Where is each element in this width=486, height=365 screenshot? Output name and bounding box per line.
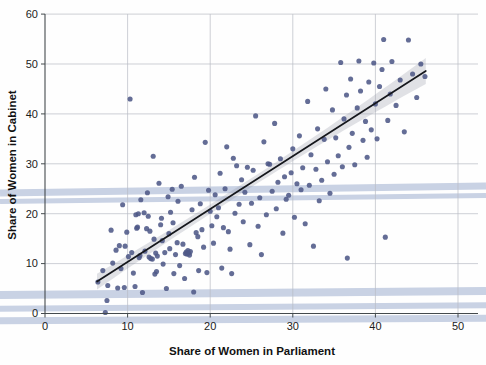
- data-point: [166, 194, 171, 199]
- data-point: [410, 71, 415, 76]
- data-point: [198, 201, 203, 206]
- data-point: [267, 162, 272, 167]
- data-point: [170, 220, 175, 225]
- data-point: [154, 269, 159, 274]
- data-point: [224, 144, 229, 149]
- data-point: [307, 183, 312, 188]
- data-point: [138, 197, 143, 202]
- data-point: [270, 189, 275, 194]
- data-point: [110, 261, 115, 266]
- data-point: [422, 74, 427, 79]
- data-point: [122, 285, 127, 290]
- x-tick-label: 0: [42, 320, 48, 332]
- data-point: [113, 248, 118, 253]
- data-point: [126, 254, 131, 259]
- data-point: [278, 156, 283, 161]
- data-point: [142, 210, 147, 215]
- data-point: [292, 215, 297, 220]
- data-point: [213, 192, 218, 197]
- data-point: [303, 221, 308, 226]
- data-point: [363, 119, 368, 124]
- data-point: [226, 229, 231, 234]
- data-point: [297, 133, 302, 138]
- data-point: [398, 77, 403, 82]
- data-point: [352, 162, 357, 167]
- data-point: [135, 225, 140, 230]
- data-point: [229, 271, 234, 276]
- data-point: [145, 190, 150, 195]
- data-point: [299, 187, 304, 192]
- data-point: [327, 191, 332, 196]
- data-point: [199, 227, 204, 232]
- data-point: [209, 223, 214, 228]
- data-point: [336, 153, 341, 158]
- data-point: [294, 181, 299, 186]
- data-point: [136, 211, 141, 216]
- data-point: [319, 178, 324, 183]
- data-point: [333, 135, 338, 140]
- data-point: [300, 165, 305, 170]
- data-point: [196, 268, 201, 273]
- data-point: [159, 216, 164, 221]
- data-point: [204, 270, 209, 275]
- data-point: [257, 195, 262, 200]
- data-point: [290, 146, 295, 151]
- data-point: [168, 210, 173, 215]
- data-point: [211, 241, 216, 246]
- data-point: [206, 188, 211, 193]
- data-point: [180, 242, 185, 247]
- data-point: [188, 249, 193, 254]
- data-point: [182, 276, 187, 281]
- data-point: [156, 181, 161, 186]
- data-point: [128, 96, 133, 101]
- data-point: [414, 95, 419, 100]
- data-point: [406, 38, 411, 43]
- data-point: [358, 88, 363, 93]
- data-point: [272, 121, 277, 126]
- data-point: [344, 92, 349, 97]
- data-point: [155, 254, 160, 259]
- x-tick-label: 20: [204, 320, 216, 332]
- data-point: [245, 165, 250, 170]
- x-tick-label: 40: [369, 320, 381, 332]
- data-point: [147, 229, 152, 234]
- y-tick-label: 20: [26, 208, 38, 220]
- data-point: [189, 207, 194, 212]
- data-point: [175, 199, 180, 204]
- y-tick-label: 10: [26, 257, 38, 269]
- data-point: [394, 103, 399, 108]
- data-point: [223, 186, 228, 191]
- data-point: [115, 286, 120, 291]
- data-point: [365, 155, 370, 160]
- data-point: [109, 228, 114, 233]
- data-point: [348, 76, 353, 81]
- data-point: [371, 60, 376, 65]
- data-point: [242, 190, 247, 195]
- data-point: [315, 126, 320, 131]
- data-point: [308, 152, 313, 157]
- data-point: [177, 263, 182, 268]
- data-point: [280, 231, 285, 236]
- data-point: [234, 163, 239, 168]
- data-point: [129, 250, 134, 255]
- data-point: [227, 247, 232, 252]
- data-point: [150, 257, 155, 262]
- data-point: [251, 168, 256, 173]
- data-point: [167, 246, 172, 251]
- y-tick-label: 40: [26, 108, 38, 120]
- y-tick-label: 0: [32, 307, 38, 319]
- data-point: [232, 211, 237, 216]
- data-point: [221, 225, 226, 230]
- data-point: [317, 198, 322, 203]
- data-point: [104, 298, 109, 303]
- data-point: [311, 244, 316, 249]
- data-point: [305, 99, 310, 104]
- data-point: [195, 234, 200, 239]
- data-point: [345, 256, 350, 261]
- data-point: [289, 170, 294, 175]
- data-point: [170, 187, 175, 192]
- data-point: [192, 175, 197, 180]
- data-point: [218, 171, 223, 176]
- data-point: [146, 214, 151, 219]
- data-point: [201, 245, 206, 250]
